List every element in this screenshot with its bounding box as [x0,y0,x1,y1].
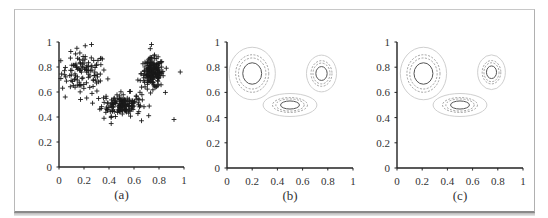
x-tick-label: 0.6 [466,175,480,187]
panel-a-scatter: 00.20.40.60.8100.20.40.60.81(a) [38,36,187,202]
y-tick-label: 1 [215,36,221,48]
y-tick-label: 0.6 [206,86,220,98]
x-tick-label: 0 [56,174,62,186]
y-tick-label: 0.6 [376,86,390,98]
y-tick-label: 0 [385,162,391,174]
panel-b-contours: 00.20.40.60.8100.20.40.60.81(b) [206,36,356,203]
x-tick-label: 0.6 [296,175,310,187]
gaussian-component-contours [400,47,446,99]
y-tick-label: 0.4 [376,112,390,124]
gaussian-component-contours [433,94,487,117]
gaussian-component-contours [306,55,336,92]
panel-label: (a) [114,187,128,202]
x-tick-label: 0.2 [77,174,91,186]
y-tick-label: 0.4 [206,112,220,124]
y-tick-label: 0.8 [376,61,390,73]
scatter-points [58,42,182,126]
x-tick-label: 0.6 [127,174,141,186]
x-tick-label: 0.8 [152,174,166,186]
y-tick-label: 0.8 [38,61,52,73]
y-tick-label: 0.2 [38,136,52,148]
figure-canvas: 00.20.40.60.8100.20.40.60.81(a) 00.20.40… [0,0,548,218]
x-tick-label: 0 [224,175,230,187]
y-tick-label: 0.4 [38,111,52,123]
gaussian-component-contours [229,47,275,99]
panel-c-contours: 00.20.40.60.8100.20.40.60.81(c) [376,36,526,203]
x-tick-label: 0 [394,175,400,187]
y-tick-label: 0.8 [206,61,220,73]
y-tick-label: 0.2 [376,137,390,149]
x-tick-label: 1 [520,175,526,187]
panel-label: (c) [453,188,467,203]
y-tick-label: 1 [385,36,391,48]
y-tick-label: 0.6 [38,86,52,98]
gaussian-component-contours [478,55,506,90]
x-tick-label: 0.8 [321,175,335,187]
x-tick-label: 0.2 [415,175,429,187]
gaussian-component-contours [263,94,317,117]
x-tick-label: 1 [181,174,187,186]
x-tick-label: 0.8 [491,175,505,187]
x-tick-label: 1 [350,175,356,187]
x-tick-label: 0.4 [102,174,116,186]
y-tick-label: 0 [47,161,53,173]
x-tick-label: 0.4 [271,175,285,187]
panel-label: (b) [282,188,297,203]
y-tick-label: 0 [215,162,221,174]
x-tick-label: 0.4 [441,175,455,187]
y-tick-label: 0.2 [206,137,220,149]
x-tick-label: 0.2 [245,175,259,187]
y-tick-label: 1 [47,36,53,48]
